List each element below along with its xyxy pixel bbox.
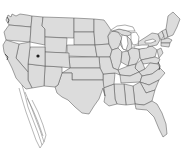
us-states-map[interactable] xyxy=(0,0,192,161)
state-maine[interactable] xyxy=(166,12,180,37)
lake-superior xyxy=(111,25,135,31)
state-kansas[interactable] xyxy=(69,57,100,68)
lake-huron xyxy=(131,32,139,45)
state-massachusetts[interactable] xyxy=(161,38,172,43)
state-iowa[interactable] xyxy=(95,44,112,57)
state-north-dakota[interactable] xyxy=(74,18,94,32)
state-montana[interactable] xyxy=(42,17,74,38)
state-florida[interactable] xyxy=(135,101,167,137)
state-connecticut-rhode-island[interactable] xyxy=(161,43,170,47)
state-colorado[interactable] xyxy=(45,52,70,68)
utah-marker[interactable] xyxy=(36,54,39,57)
baja-artifact-streaks xyxy=(19,85,46,148)
state-wyoming[interactable] xyxy=(45,37,67,53)
state-arizona[interactable] xyxy=(28,64,45,88)
state-new-jersey[interactable] xyxy=(157,48,163,58)
state-oregon[interactable] xyxy=(4,25,31,42)
state-nebraska[interactable] xyxy=(67,45,97,57)
state-south-dakota[interactable] xyxy=(74,32,95,45)
states-layer[interactable] xyxy=(3,12,180,148)
map-canvas: Contiguous United States xyxy=(0,0,192,161)
